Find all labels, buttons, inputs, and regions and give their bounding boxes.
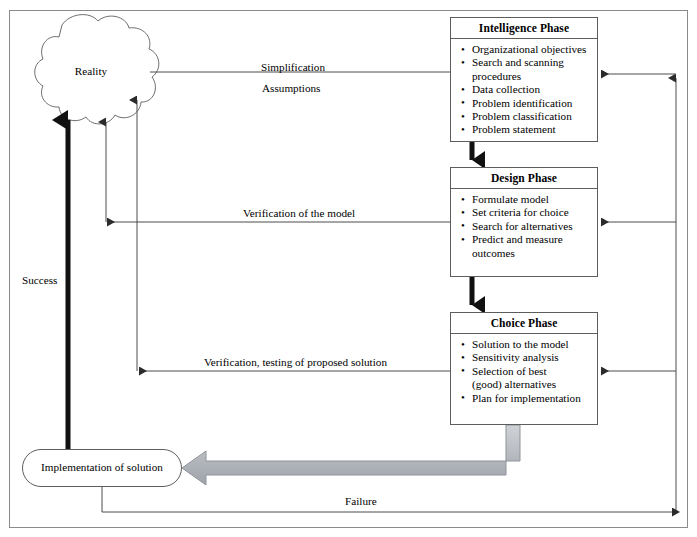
list-item: Search for alternatives <box>461 220 593 233</box>
label-success: Success <box>22 274 57 286</box>
intelligence-phase-box[interactable]: Intelligence Phase Organizational object… <box>450 17 598 142</box>
edge-failure <box>102 487 672 512</box>
label-simplification: Simplification <box>261 61 325 73</box>
label-verification-of-model: Verification of the model <box>243 207 355 219</box>
implementation-of-solution-label: Implementation of solution <box>22 461 182 473</box>
list-item: Problem classification <box>461 110 593 123</box>
reality-label: Reality <box>56 65 126 77</box>
choice-phase-list: Solution to the model Sensitivity analys… <box>451 334 597 409</box>
list-item: Selection of best <box>461 365 593 378</box>
list-item: Sensitivity analysis <box>461 351 593 364</box>
list-item: outcomes <box>461 247 593 260</box>
list-item: Formulate model <box>461 193 593 206</box>
design-phase-box[interactable]: Design Phase Formulate model Set criteri… <box>450 167 598 277</box>
list-item: Solution to the model <box>461 338 593 351</box>
list-item: Predict and measure <box>461 233 593 246</box>
list-item: Problem identification <box>461 97 593 110</box>
label-failure: Failure <box>345 495 377 507</box>
intelligence-phase-title: Intelligence Phase <box>451 18 597 39</box>
intelligence-phase-list: Organizational objectives Search and sca… <box>451 39 597 141</box>
list-item: Set criteria for choice <box>461 206 593 219</box>
label-assumptions: Assumptions <box>262 82 320 94</box>
choice-phase-title: Choice Phase <box>451 313 597 334</box>
choice-phase-box[interactable]: Choice Phase Solution to the model Sensi… <box>450 312 598 425</box>
list-item: procedures <box>461 70 593 83</box>
list-item: Organizational objectives <box>461 43 593 56</box>
list-item: Plan for implementation <box>461 392 593 405</box>
list-item: Problem statement <box>461 123 593 136</box>
label-verification-testing-solution: Verification, testing of proposed soluti… <box>204 356 387 368</box>
diagram-canvas: Reality Intelligence Phase Organizationa… <box>0 0 697 537</box>
design-phase-title: Design Phase <box>451 168 597 189</box>
list-item: (good) alternatives <box>461 378 593 391</box>
list-item: Data collection <box>461 83 593 96</box>
list-item: Search and scanning <box>461 56 593 69</box>
design-phase-list: Formulate model Set criteria for choice … <box>451 189 597 264</box>
edge-choice-to-implementation <box>182 425 520 485</box>
